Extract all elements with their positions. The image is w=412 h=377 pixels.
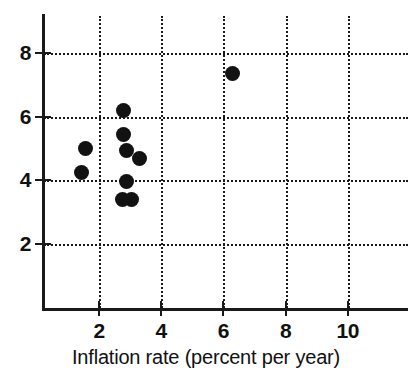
y-tick-6 [35,116,51,118]
data-point [124,192,139,207]
x-axis-title: Inflation rate (percent per year) [0,345,412,369]
gridline-y-2 [44,244,408,246]
x-tick-label-6: 6 [203,319,243,343]
y-tick-8 [35,52,51,54]
x-tick-label-4: 4 [141,319,181,343]
y-tick-label-4: 4 [0,168,31,192]
gridline-y-4 [44,180,408,182]
x-tick-6 [222,301,224,316]
y-tick-4 [35,179,51,181]
x-tick-label-8: 8 [266,319,306,343]
gridline-x-4 [161,16,163,308]
data-point [116,103,131,118]
data-point [225,66,240,81]
x-tick-8 [285,301,287,316]
y-tick-2 [35,243,51,245]
gridline-x-8 [286,16,288,308]
x-tick-4 [160,301,162,316]
data-point [116,127,131,142]
gridline-x-2 [99,16,101,308]
x-tick-10 [347,301,349,316]
data-point [119,174,134,189]
data-point [132,151,147,166]
y-tick-label-8: 8 [0,41,31,65]
y-tick-label-2: 2 [0,232,31,256]
x-tick-2 [98,301,100,316]
x-tick-label-2: 2 [79,319,119,343]
clipped-title-text [0,0,412,2]
scatter-plot-figure: 246810 2468 Inflation rate (percent per … [0,0,412,377]
gridline-y-8 [44,53,408,55]
y-tick-label-6: 6 [0,105,31,129]
y-axis-line [42,14,45,311]
data-point [78,141,93,156]
gridline-y-6 [44,117,408,119]
x-axis-line [42,308,408,311]
data-point [74,165,89,180]
gridline-x-10 [348,16,350,308]
gridline-x-6 [223,16,225,308]
x-tick-label-10: 10 [328,319,368,343]
